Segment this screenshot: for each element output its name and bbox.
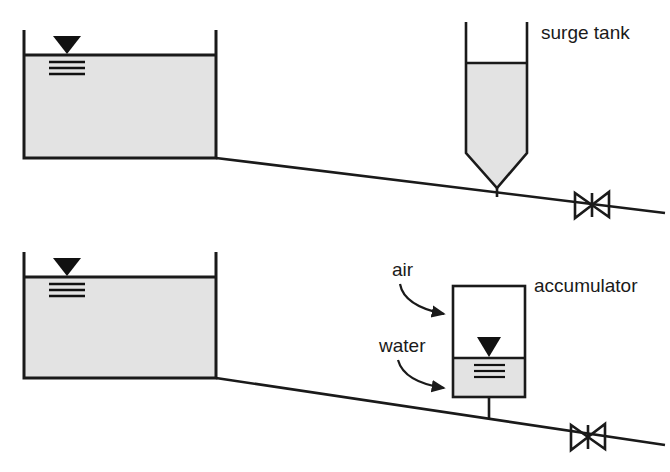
air-callout: air <box>392 259 444 314</box>
surge-tank-label: surge tank <box>541 22 630 43</box>
upper-pipeline <box>216 158 665 213</box>
schematic-canvas: surge tank <box>0 0 670 472</box>
air-callout-arrow <box>400 284 444 314</box>
water-callout-label: water <box>378 335 426 356</box>
surge-tank <box>465 22 528 197</box>
lower-valve[interactable] <box>571 424 605 450</box>
lower-valve-left-triangle <box>571 425 588 450</box>
air-callout-label: air <box>392 259 414 280</box>
accumulator <box>452 286 526 418</box>
surge-tank-water-fill <box>466 63 527 187</box>
upper-reservoir-water-fill <box>24 55 216 158</box>
upper-reservoir <box>23 30 217 158</box>
water-callout: water <box>378 335 444 388</box>
accumulator-label: accumulator <box>534 275 638 296</box>
lower-reservoir-water-fill <box>24 277 216 378</box>
diagram-root: surge tank <box>0 0 670 472</box>
water-callout-arrow <box>398 360 444 388</box>
lower-reservoir <box>23 252 217 378</box>
accumulator-system: accumulator air water <box>23 252 665 450</box>
upper-valve-left-triangle <box>575 193 592 218</box>
surge-tank-system: surge tank <box>23 22 665 218</box>
